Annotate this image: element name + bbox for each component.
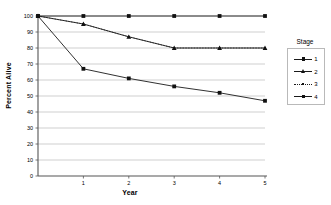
legend-item-2[interactable]: 2 [288,66,324,78]
x-tick-label: 4 [213,180,227,186]
y-tick-label: 0 [19,173,33,179]
legend-marker-1 [302,57,306,61]
marker-dot-3 [128,36,130,38]
y-tick-label: 50 [19,93,33,99]
legend-swatch-4 [294,92,312,102]
marker-dot-3 [83,23,85,25]
y-tick-label: 80 [19,45,33,51]
legend-swatch-1 [294,54,312,64]
legend-marker-4 [302,95,306,99]
y-tick-label: 100 [19,13,33,19]
marker-square-4 [82,67,86,71]
legend-title: Stage [287,38,323,45]
marker-square-1 [127,14,131,18]
marker-dot-3 [173,47,175,49]
y-tick-label: 70 [19,61,33,67]
y-tick-label: 10 [19,157,33,163]
x-tick-label: 3 [167,180,181,186]
legend-label: 1 [314,56,317,62]
marker-square-1 [263,14,267,18]
y-tick-label: 40 [19,109,33,115]
legend-marker-3 [302,83,304,85]
legend-marker-2 [301,69,305,73]
x-tick-label: 2 [122,180,136,186]
marker-square-1 [82,14,86,18]
marker-square-4 [127,77,131,81]
legend-label: 4 [314,94,317,100]
marker-square-4 [172,85,176,89]
marker-dot-3 [219,47,221,49]
marker-dot-3 [264,47,266,49]
y-tick-label: 20 [19,141,33,147]
x-tick-label: 1 [76,180,90,186]
legend-label: 2 [314,69,317,75]
marker-square-4 [218,91,222,95]
marker-square-1 [218,14,222,18]
legend-swatch-2 [294,67,312,77]
y-tick-label: 30 [19,125,33,131]
y-tick-label: 90 [19,29,33,35]
marker-square-4 [263,99,267,103]
legend-item-3[interactable]: 3 [288,78,324,90]
legend-swatch-3 [294,79,312,89]
legend-label: 3 [314,81,317,87]
legend-box: 1234 [287,48,325,105]
x-tick-label: 5 [258,180,272,186]
series-line-4 [38,16,265,101]
y-tick-label: 60 [19,77,33,83]
legend-item-4[interactable]: 4 [288,91,324,103]
marker-square-1 [172,14,176,18]
plot-area [0,0,331,205]
legend-item-1[interactable]: 1 [288,53,324,65]
line-chart: Percent Alive Year 010203040506070809010… [0,0,331,205]
marker-square-4 [36,14,40,18]
